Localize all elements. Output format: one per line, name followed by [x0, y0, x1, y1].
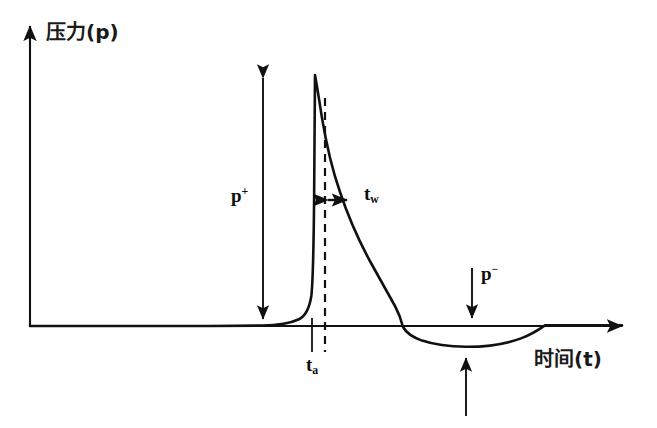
negative-pressure-label: p−	[481, 264, 498, 283]
figure-canvas: 压力(p) 时间(t) p+ tw ta p−	[0, 0, 657, 428]
positive-duration-subscript: w	[370, 193, 379, 206]
y-axis-label: 压力(p)	[46, 22, 119, 42]
positive-duration-label: tw	[364, 184, 379, 205]
positive-pressure-label: p+	[231, 186, 248, 205]
positive-pressure-superscript: +	[242, 185, 249, 198]
arrival-time-label: ta	[306, 355, 318, 376]
x-axis-label: 时间(t)	[534, 349, 602, 369]
positive-pressure-symbol: p	[231, 185, 242, 206]
negative-pressure-symbol: p	[481, 263, 492, 284]
arrival-time-subscript: a	[312, 364, 318, 377]
negative-pressure-superscript: −	[492, 263, 499, 276]
